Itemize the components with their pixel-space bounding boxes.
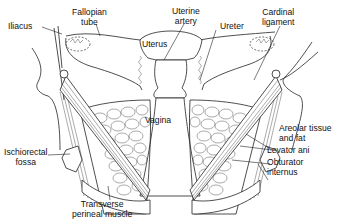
label-iliacus: Iliacus	[8, 22, 32, 32]
left-pelvic-wall	[32, 48, 60, 150]
right-ovary	[250, 37, 274, 51]
cervix-shape	[154, 60, 187, 98]
label-transverse-perineal-line2: perineal muscle	[72, 210, 132, 220]
label-fallopian-tube: Fallopian tube	[72, 8, 107, 27]
left-levator-ani	[60, 76, 150, 200]
label-cardinal-ligament: Cardinal ligament	[262, 8, 294, 27]
left-uterine-artery	[139, 56, 142, 84]
left-ligament-node	[60, 70, 68, 78]
label-vagina: Vagina	[145, 116, 171, 126]
label-uterine-artery: Uterine artery	[172, 7, 200, 26]
label-areolar-tissue: Areolar tissue and fat	[279, 124, 332, 143]
label-ischiorectal-fossa: Ischiorectal fossa	[4, 148, 47, 167]
label-cardinal-ligament-line2: ligament	[262, 18, 294, 28]
label-fallopian-tube-line2: tube	[72, 18, 107, 28]
right-ligament-node	[272, 70, 280, 78]
left-ischial-tuberosity	[62, 146, 82, 172]
vagina-shape	[140, 98, 200, 196]
label-levator-ani: Levator ani	[267, 146, 310, 156]
label-areolar-tissue-line2: and fat	[279, 134, 332, 144]
label-ischiorectal-fossa-line2: fossa	[4, 158, 47, 168]
label-uterus: Uterus	[142, 40, 167, 50]
label-transverse-perineal-muscle: Transverse perineal muscle	[72, 200, 132, 219]
label-ureter: Ureter	[220, 22, 244, 32]
label-obturator-internus: Obturator internus	[267, 158, 303, 177]
label-uterine-artery-line2: artery	[172, 17, 200, 27]
pelvis-diagram: Iliacus Fallopian tube Uterus Uterine ar…	[0, 0, 342, 224]
label-obturator-internus-line2: internus	[267, 168, 303, 178]
anatomy-drawing	[0, 0, 342, 224]
